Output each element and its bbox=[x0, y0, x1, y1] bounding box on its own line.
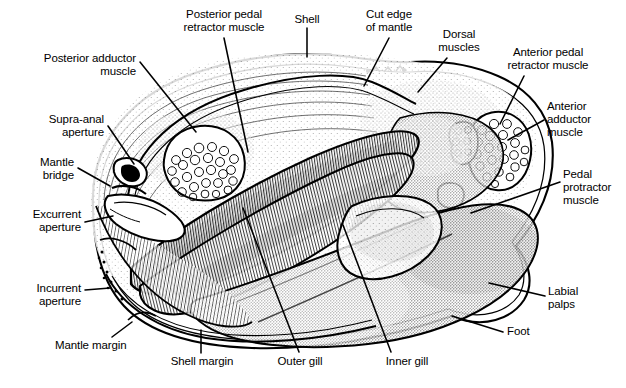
label-pedal-protractor-muscle: Pedal protractor muscle bbox=[563, 168, 625, 208]
label-inner-gill: Inner gill bbox=[378, 355, 436, 368]
label-posterior-pedal-retractor-muscle: Posterior pedal retractor muscle bbox=[166, 8, 282, 34]
label-supra-anal-aperture: Supra-anal aperture bbox=[30, 113, 104, 139]
label-excurrent-aperture: Excurrent aperture bbox=[13, 208, 81, 234]
leader-mantle-margin bbox=[112, 322, 132, 337]
label-anterior-pedal-retractor-muscle: Anterior pedal retractor muscle bbox=[492, 46, 604, 72]
label-foot: Foot bbox=[507, 325, 541, 338]
posterior-adductor-muscle-shape bbox=[164, 126, 245, 201]
label-shell-margin: Shell margin bbox=[163, 355, 241, 368]
label-labial-palps: Labial palps bbox=[548, 285, 602, 311]
leader-incurrent-aperture bbox=[85, 288, 110, 290]
label-dorsal-muscles: Dorsal muscles bbox=[430, 28, 488, 54]
label-anterior-adductor-muscle: Anterior adductor muscle bbox=[547, 100, 621, 140]
label-incurrent-aperture: Incurrent aperture bbox=[13, 282, 81, 308]
label-outer-gill: Outer gill bbox=[270, 355, 330, 368]
label-mantle-margin: Mantle margin bbox=[55, 339, 141, 352]
label-cut-edge-of-mantle: Cut edge of mantle bbox=[355, 8, 423, 34]
label-shell: Shell bbox=[285, 13, 329, 26]
label-posterior-adductor-muscle: Posterior adductor muscle bbox=[24, 52, 136, 78]
label-mantle-bridge: Mantle bridge bbox=[18, 156, 74, 182]
figure-canvas: Posterior pedal retractor muscleShellCut… bbox=[0, 0, 626, 388]
leader-foot bbox=[452, 316, 503, 332]
